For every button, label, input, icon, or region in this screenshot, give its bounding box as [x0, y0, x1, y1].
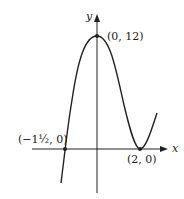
- cubic-graph: y x (0, 12) (−1½, 0) (2, 0): [0, 0, 184, 199]
- x-axis-arrow-icon: [160, 146, 168, 152]
- x-axis-label: x: [172, 142, 179, 155]
- peak-label: (0, 12): [107, 30, 144, 43]
- y-axis-label: y: [85, 10, 93, 23]
- right-root-point: [138, 147, 142, 151]
- right-root-label: (2, 0): [127, 153, 157, 166]
- y-axis-arrow-icon: [94, 14, 100, 22]
- peak-point: [95, 34, 99, 38]
- left-root-point: [63, 147, 67, 151]
- left-root-label: (−1½, 0): [18, 133, 67, 146]
